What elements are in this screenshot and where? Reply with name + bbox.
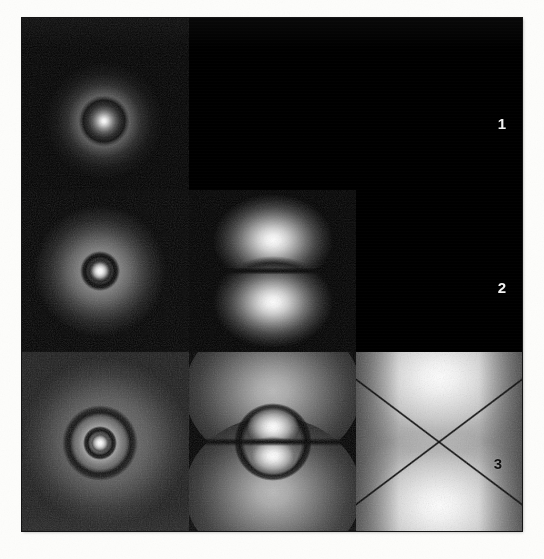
- density-overlay-3d: [356, 352, 522, 531]
- density-overlay-3s: [22, 352, 189, 531]
- panel-row-2: [22, 190, 522, 352]
- radial-node-2s: [80, 251, 120, 291]
- density-core-2s: [89, 260, 111, 282]
- panel-orbital-3d: [356, 352, 522, 531]
- density-lobe-2p-lower: [213, 256, 333, 348]
- density-shell-3s-mid: [69, 412, 131, 474]
- density-lobe-3p-inner-lower: [247, 436, 299, 476]
- conical-node-3d-a: [356, 362, 522, 521]
- conical-node-3d-b: [356, 362, 522, 521]
- radial-node-3p: [234, 403, 312, 481]
- density-core-3s: [91, 434, 110, 453]
- density-field-3p: [189, 352, 356, 531]
- panel-orbital-1s: [22, 18, 189, 190]
- panel-orbital-2p: [189, 190, 356, 352]
- panel-row-1: [22, 18, 522, 190]
- panel-orbital-3p: [189, 352, 356, 531]
- density-field-2p: [189, 190, 356, 352]
- density-lobe-3p-outer-lower: [189, 417, 356, 531]
- density-shell-2s-outer: [34, 205, 166, 337]
- figure-page: 1 2 3: [0, 0, 544, 559]
- density-blob-1s-core: [78, 95, 130, 147]
- radial-node-3s-outer: [62, 405, 138, 481]
- radial-node-3s-inner: [83, 426, 117, 460]
- nodal-plane-2p: [189, 268, 356, 275]
- nodal-plane-3p: [189, 438, 356, 446]
- density-blob-1s-halo: [45, 62, 163, 180]
- panel-row-3: [22, 352, 522, 531]
- panel-orbital-3s: [22, 352, 189, 531]
- density-lobe-3p-inner-upper: [247, 407, 299, 447]
- density-field-2s: [22, 190, 189, 352]
- density-lobe-3p-outer-upper: [189, 352, 356, 466]
- image-plate: 1 2 3: [22, 18, 522, 531]
- density-field-1s: [22, 18, 189, 190]
- density-lobe-2p-upper: [213, 194, 333, 286]
- panel-orbital-2s: [22, 190, 189, 352]
